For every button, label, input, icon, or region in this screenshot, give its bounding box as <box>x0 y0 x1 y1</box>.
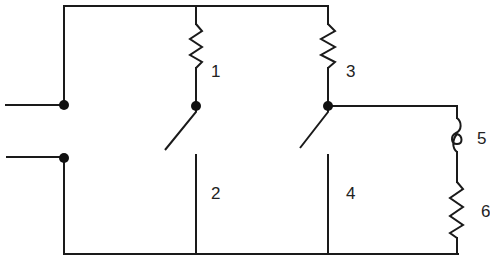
coil-5 <box>452 118 462 152</box>
junction-dot-switch-1 <box>191 101 201 111</box>
label-6: 6 <box>481 202 490 221</box>
junction-dot-switch-3 <box>323 101 333 111</box>
label-3: 3 <box>346 62 355 81</box>
junction-dot-terminal-bottom <box>59 153 69 163</box>
resistor-1 <box>190 24 202 68</box>
switch-blade-3 <box>300 106 328 148</box>
circuit-diagram: 1 2 3 4 5 6 <box>0 0 490 270</box>
label-1: 1 <box>211 62 220 81</box>
label-4: 4 <box>346 184 355 203</box>
resistor-6 <box>450 182 463 238</box>
label-2: 2 <box>211 184 220 203</box>
junction-dot-terminal-top <box>59 100 69 110</box>
resistor-3 <box>321 24 335 68</box>
switch-blade-1 <box>165 106 196 150</box>
label-5: 5 <box>477 129 486 148</box>
